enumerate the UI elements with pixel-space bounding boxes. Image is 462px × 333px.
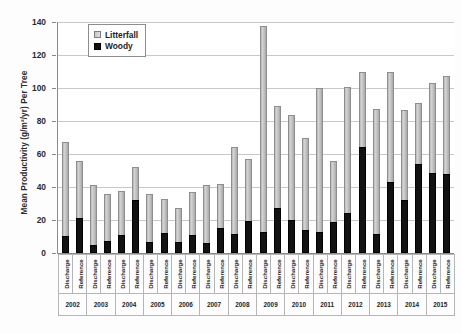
- bar-2007-reference[interactable]: [217, 184, 224, 253]
- bar-segment-litterfall: [344, 87, 351, 213]
- x-label-treatment-text: Reference: [416, 259, 423, 288]
- bar-segment-litterfall: [90, 185, 97, 244]
- bar-2011-discharge[interactable]: [316, 88, 323, 253]
- x-label-treatment-text: Reference: [218, 259, 225, 288]
- x-label-treatment-text: Reference: [387, 259, 394, 288]
- x-label-year-2007: 2007: [200, 294, 228, 316]
- bar-segment-woody: [330, 222, 337, 253]
- bar-2008-discharge[interactable]: [231, 147, 238, 253]
- y-tick-label-140: 140: [6, 17, 46, 27]
- x-label-treatment-2003-discharge: Discharge: [87, 254, 101, 294]
- x-label-treatment-text: Discharge: [90, 259, 97, 288]
- x-label-year-2013: 2013: [370, 294, 398, 316]
- bar-2015-discharge[interactable]: [429, 83, 436, 253]
- bar-2014-reference[interactable]: [415, 103, 422, 253]
- x-label-treatment-2003-reference: Reference: [101, 254, 115, 294]
- bar-segment-litterfall: [373, 109, 380, 234]
- legend-label-litterfall: Litterfall: [105, 30, 138, 40]
- bar-segment-litterfall: [76, 161, 83, 218]
- gridline-80: [58, 121, 454, 122]
- bar-2010-discharge[interactable]: [288, 115, 295, 253]
- bar-2005-discharge[interactable]: [146, 194, 153, 253]
- x-label-treatment-2010-discharge: Discharge: [285, 254, 299, 294]
- bar-segment-litterfall: [245, 159, 252, 221]
- bar-2014-discharge[interactable]: [401, 110, 408, 253]
- x-label-treatment-text: Discharge: [232, 259, 239, 288]
- bar-2011-reference[interactable]: [330, 161, 337, 253]
- bar-segment-litterfall: [302, 138, 309, 230]
- x-label-treatment-text: Reference: [331, 259, 338, 288]
- bar-segment-woody: [62, 236, 69, 253]
- bar-2012-reference[interactable]: [359, 72, 366, 253]
- x-label-treatment-text: Reference: [359, 259, 366, 288]
- x-label-year-2011: 2011: [314, 294, 342, 316]
- x-label-treatment-2002-reference: Reference: [73, 254, 87, 294]
- bar-2013-reference[interactable]: [387, 72, 394, 253]
- x-label-treatment-text: Discharge: [288, 259, 295, 288]
- bar-segment-woody: [274, 208, 281, 253]
- bar-2002-reference[interactable]: [76, 161, 83, 253]
- bar-segment-woody: [104, 241, 111, 253]
- bar-2004-discharge[interactable]: [118, 191, 125, 253]
- x-label-treatment-text: Discharge: [430, 259, 437, 288]
- bar-2004-reference[interactable]: [132, 167, 139, 253]
- bar-2009-reference[interactable]: [274, 106, 281, 253]
- x-label-treatment-2011-reference: Reference: [328, 254, 342, 294]
- bar-segment-woody: [175, 242, 182, 253]
- bar-2007-discharge[interactable]: [203, 185, 210, 253]
- bar-segment-litterfall: [330, 161, 337, 222]
- bar-2012-discharge[interactable]: [344, 87, 351, 253]
- bar-segment-litterfall: [316, 88, 323, 232]
- bar-2003-reference[interactable]: [104, 194, 111, 253]
- x-label-treatment-2007-discharge: Discharge: [200, 254, 214, 294]
- x-label-year-2008: 2008: [229, 294, 257, 316]
- x-label-treatment-2012-reference: Reference: [356, 254, 370, 294]
- legend-item-litterfall: Litterfall: [94, 30, 138, 40]
- bar-2006-reference[interactable]: [189, 192, 196, 253]
- x-label-treatment-text: Reference: [246, 259, 253, 288]
- gridline-140: [58, 22, 454, 23]
- x-label-year-2009: 2009: [257, 294, 285, 316]
- bar-segment-woody: [146, 242, 153, 253]
- bar-segment-woody: [217, 228, 224, 253]
- x-label-treatment-text: Reference: [302, 259, 309, 288]
- bar-2003-discharge[interactable]: [90, 185, 97, 253]
- bar-segment-litterfall: [231, 147, 238, 234]
- x-label-treatment-text: Discharge: [260, 259, 267, 288]
- bar-segment-litterfall: [359, 72, 366, 147]
- y-axis-line: [57, 22, 58, 253]
- legend-item-woody: Woody: [94, 41, 138, 51]
- bar-segment-litterfall: [260, 26, 267, 231]
- bar-2005-reference[interactable]: [161, 199, 168, 253]
- legend-swatch-woody-icon: [94, 43, 101, 50]
- x-label-treatment-text: Discharge: [317, 259, 324, 288]
- bar-2015-reference[interactable]: [443, 76, 450, 253]
- bar-segment-woody: [288, 220, 295, 253]
- chart-container: Mean Productivity (g/m²/yr) Per Tree 020…: [0, 0, 462, 333]
- gridline-60: [58, 154, 454, 155]
- y-tick-mark-20: [52, 220, 56, 221]
- bar-segment-woody: [443, 174, 450, 253]
- bar-segment-litterfall: [146, 194, 153, 243]
- bar-segment-litterfall: [62, 142, 69, 235]
- x-label-treatment-2006-reference: Reference: [186, 254, 200, 294]
- x-label-treatment-2009-reference: Reference: [271, 254, 285, 294]
- x-axis-label-table: DischargeReferenceDischargeReferenceDisc…: [58, 254, 454, 316]
- bar-2008-reference[interactable]: [245, 159, 252, 253]
- legend-swatch-litterfall-icon: [94, 31, 101, 38]
- bar-segment-litterfall: [401, 110, 408, 200]
- bar-2006-discharge[interactable]: [175, 208, 182, 253]
- bar-2002-discharge[interactable]: [62, 142, 69, 253]
- x-label-treatment-2011-discharge: Discharge: [314, 254, 328, 294]
- bar-2013-discharge[interactable]: [373, 109, 380, 253]
- bar-2009-discharge[interactable]: [260, 26, 267, 253]
- y-tick-label-60: 60: [6, 149, 46, 159]
- bar-segment-litterfall: [429, 83, 436, 173]
- bar-segment-woody: [415, 164, 422, 253]
- bar-segment-woody: [302, 230, 309, 253]
- bar-segment-woody: [132, 200, 139, 253]
- bar-segment-woody: [118, 235, 125, 253]
- y-tick-mark-80: [52, 121, 56, 122]
- bar-2010-reference[interactable]: [302, 138, 309, 253]
- bar-segment-litterfall: [415, 103, 422, 164]
